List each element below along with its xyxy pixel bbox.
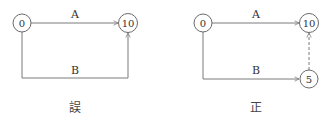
network-diagram-canvas: A B 0 10 A B 0 10 <box>0 0 321 121</box>
node-label: 0 <box>19 18 25 29</box>
node-label: 10 <box>303 18 316 29</box>
node-end: 10 <box>300 14 319 33</box>
node-label: 0 <box>200 18 206 29</box>
node-label: 5 <box>306 74 312 85</box>
node-start: 0 <box>194 14 212 32</box>
edge-a-label: A <box>251 8 261 21</box>
edge-a-label: A <box>70 8 80 21</box>
edge-b-label: B <box>252 64 260 77</box>
node-start: 0 <box>13 14 31 32</box>
diagram-incorrect: A B 0 10 <box>13 8 138 78</box>
caption-correct: 正 <box>241 98 271 115</box>
node-end: 10 <box>119 14 138 33</box>
node-dummy: 5 <box>300 70 318 88</box>
edge-b-label: B <box>71 64 79 77</box>
diagram-correct: A B 0 10 5 <box>194 8 319 88</box>
node-label: 10 <box>122 18 135 29</box>
caption-incorrect: 誤 <box>60 98 90 115</box>
